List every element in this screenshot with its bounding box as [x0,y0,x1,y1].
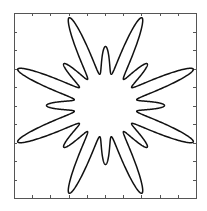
plot-background [0,0,207,211]
polar-flower-chart [0,0,207,211]
